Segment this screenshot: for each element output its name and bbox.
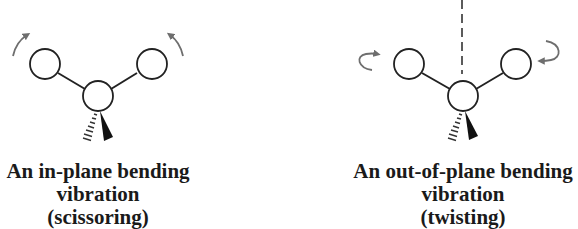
atom-right bbox=[501, 49, 531, 79]
twisting-molecule bbox=[359, 0, 558, 141]
scissoring-caption: An in-plane bending vibration (scissorin… bbox=[0, 160, 196, 229]
twisting-caption: An out-of-plane bending vibration (twist… bbox=[343, 160, 578, 229]
hashed-bond bbox=[83, 114, 97, 141]
bond-right bbox=[111, 73, 137, 89]
curved-arrow-up-left-icon bbox=[13, 35, 27, 56]
bond-left bbox=[58, 73, 85, 89]
bond-right bbox=[476, 73, 503, 89]
caption-line-3: (twisting) bbox=[343, 206, 578, 229]
bond-left bbox=[422, 73, 450, 89]
scissoring-molecule bbox=[13, 35, 183, 141]
wedge-bond bbox=[465, 111, 478, 140]
atom-center bbox=[448, 81, 478, 111]
atom-right bbox=[137, 49, 167, 79]
curved-arrow-up-right-icon bbox=[170, 35, 183, 56]
atom-center bbox=[83, 81, 113, 111]
caption-line-1: An out-of-plane bending bbox=[343, 160, 578, 183]
hashed-bond bbox=[448, 114, 462, 141]
wedge-bond bbox=[100, 111, 113, 141]
caption-line-2: vibration bbox=[0, 183, 196, 206]
rotate-arrow-left-icon bbox=[359, 54, 377, 71]
atom-left bbox=[30, 49, 60, 79]
atom-left bbox=[394, 49, 424, 79]
caption-line-2: vibration bbox=[343, 183, 578, 206]
caption-line-1: An in-plane bending bbox=[0, 160, 196, 183]
rotate-arrow-right-icon bbox=[541, 41, 559, 61]
caption-line-3: (scissoring) bbox=[0, 206, 196, 229]
